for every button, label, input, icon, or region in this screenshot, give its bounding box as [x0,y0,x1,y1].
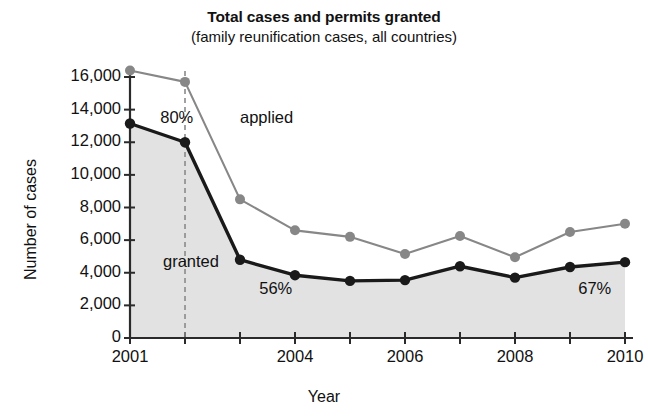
annotation-56pct: 56% [259,279,292,298]
annotation-67pct: 67% [578,279,611,298]
y-tick-label: 0 [112,327,121,346]
y-tick-label: 8,000 [80,197,121,216]
data-point-applied-2005 [345,232,355,242]
x-tick-label: 2008 [475,347,555,366]
granted-area-fill [130,123,625,338]
x-tick-label: 2001 [90,347,170,366]
y-tick-label: 4,000 [80,262,121,281]
data-point-applied-2001 [125,65,135,75]
data-point-granted-2005 [345,276,355,286]
y-tick-label: 16,000 [71,66,121,85]
data-point-granted-2010 [620,257,630,267]
data-point-granted-2008 [510,272,520,282]
data-point-granted-2009 [565,262,575,272]
data-point-granted-2001 [125,118,135,128]
data-point-applied-2008 [510,252,520,262]
data-point-granted-2002 [180,137,190,147]
x-tick-label: 2010 [585,347,648,366]
series-label-granted: granted [163,252,219,271]
data-point-granted-2003 [235,255,245,265]
data-point-applied-2002 [180,77,190,87]
data-point-applied-2004 [290,225,300,235]
annotation-80pct: 80% [160,108,193,127]
series-label-applied: applied [240,108,293,127]
data-point-applied-2007 [455,231,465,241]
y-tick-label: 14,000 [71,99,121,118]
chart-container: Total cases and permits granted (family … [0,0,648,420]
data-point-granted-2007 [455,261,465,271]
data-point-applied-2003 [235,194,245,204]
y-tick-label: 12,000 [71,131,121,150]
data-point-applied-2006 [400,249,410,259]
data-point-applied-2010 [620,219,630,229]
y-tick-label: 2,000 [80,294,121,313]
y-tick-label: 10,000 [71,164,121,183]
data-point-applied-2009 [565,227,575,237]
x-tick-label: 2004 [255,347,335,366]
x-tick-label: 2006 [365,347,445,366]
y-tick-label: 6,000 [80,229,121,248]
data-point-granted-2006 [400,275,410,285]
